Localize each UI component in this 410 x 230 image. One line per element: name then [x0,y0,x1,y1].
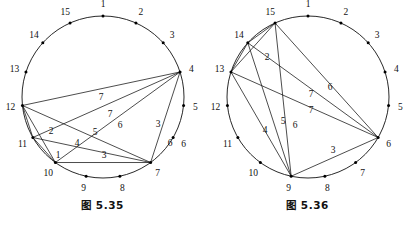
chord-14-9 [248,43,291,176]
node-dot-7 [149,161,152,164]
chord-15-6 [275,23,378,138]
chord-9-6 [291,138,378,177]
chord-14-13 [231,43,248,72]
node-label-11: 11 [18,139,27,149]
node-label-4: 4 [189,64,194,74]
figure-page: 123456789101112131415 7765433621 图 5.35 … [0,0,410,230]
node-label-3: 3 [170,30,175,40]
figure-5-35: 123456789101112131415 7765433621 图 5.35 [0,0,205,230]
edge-label-1: 7 [309,89,314,99]
chord-group [231,23,378,176]
node-dot-2 [339,22,342,25]
node-label-4: 4 [394,64,399,74]
node-label-7: 7 [360,168,365,178]
edge-label-5: 3 [102,150,107,160]
edge-label-5: 4 [263,125,268,135]
node-label-1: 1 [306,0,311,9]
edge-label-6: 3 [331,145,336,155]
figure-5-36: 123456789101112131415 67756432 图 5.36 [205,0,410,230]
node-dot-5 [182,104,185,107]
node-dot-13 [24,70,27,73]
node-label-1: 1 [101,0,106,9]
node-label-7: 7 [155,168,160,178]
node-label-8: 8 [325,183,330,193]
node-dot-14 [41,41,44,44]
node-dot-1 [307,15,310,18]
figure-5-36-canvas: 123456789101112131415 67756432 [205,0,410,200]
node-dot-3 [367,41,370,44]
node-label-15: 15 [60,7,70,17]
node-label-6: 6 [181,139,186,149]
node-label-5: 5 [398,102,403,112]
edge-label-group: 7765433621 [49,92,173,160]
node-label-15: 15 [265,7,275,17]
node-dot-12 [226,104,229,107]
figure-caption: 图 5.36 [205,197,410,212]
node-label-3: 3 [375,30,380,40]
node-dot-4 [384,70,387,73]
node-label-13: 13 [215,64,225,74]
edge-label-3: 5 [93,127,98,137]
node-label-10: 10 [249,168,259,178]
node-label-2: 2 [138,7,143,17]
figure-5-35-canvas: 123456789101112131415 7765433621 [0,0,205,200]
node-dot-9 [290,175,293,178]
node-dot-2 [134,22,137,25]
node-dot-5 [387,104,390,107]
node-dot-11 [31,136,34,139]
node-dot-8 [323,175,326,178]
node-dot-13 [229,70,232,73]
node-label-12: 12 [211,102,221,112]
chord-13-6 [231,72,378,138]
node-label-5: 5 [193,102,198,112]
node-dot-12 [21,104,24,107]
edge-label-2: 6 [118,120,123,130]
node-dot-6 [377,136,380,139]
edge-label-7: 6 [168,138,173,148]
figure-caption: 图 5.35 [0,197,205,212]
edge-label-1: 7 [108,109,113,119]
edge-label-0: 7 [99,92,104,102]
node-dot-10 [259,161,262,164]
node-dot-14 [246,41,249,44]
edge-label-2: 7 [309,105,314,115]
chord-15-14 [248,23,275,43]
node-label-12: 12 [6,102,16,112]
node-label-9: 9 [81,183,86,193]
chord-group [22,72,180,163]
node-dot-15 [274,22,277,25]
edge-label-4: 6 [293,120,298,130]
node-dot-1 [102,15,105,18]
node-label-6: 6 [386,139,391,149]
edge-label-3: 5 [281,116,286,126]
node-dot-11 [236,136,239,139]
node-dot-15 [69,22,72,25]
edge-label-7: 2 [265,52,270,62]
node-dot-3 [162,41,165,44]
edge-label-0: 6 [328,82,333,92]
edge-label-6: 3 [156,119,161,129]
edge-label-4: 4 [75,138,80,148]
node-label-2: 2 [343,7,348,17]
node-label-8: 8 [120,183,125,193]
edge-label-8: 2 [49,126,54,136]
node-dot-10 [54,161,57,164]
node-label-11: 11 [223,139,232,149]
node-dot-9 [85,175,88,178]
node-label-group: 123456789101112131415 [211,0,403,193]
edge-label-group: 67756432 [263,52,336,155]
node-label-13: 13 [10,64,20,74]
node-label-14: 14 [234,30,244,40]
node-dot-8 [118,175,121,178]
node-label-9: 9 [286,183,291,193]
node-label-10: 10 [44,168,54,178]
node-dot-7 [354,161,357,164]
chord-12-7 [22,105,150,162]
edge-label-9: 1 [56,150,61,160]
node-label-14: 14 [29,30,39,40]
node-dot-4 [179,70,182,73]
